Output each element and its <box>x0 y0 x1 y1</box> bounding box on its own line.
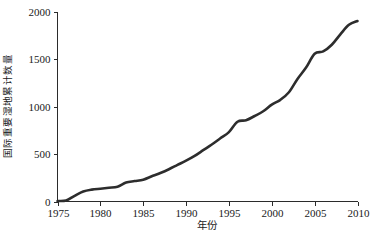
x-tick-label: 1975 <box>48 207 71 219</box>
x-tick-label: 1990 <box>176 207 199 219</box>
y-tick-labels: 0500100015002000 <box>29 6 52 208</box>
line-chart: 0500100015002000 19751980198519901995200… <box>0 0 376 242</box>
x-tick-labels: 19751980198519901995200020052010 <box>48 207 371 219</box>
y-tick-label: 1500 <box>29 53 52 65</box>
x-axis-title: 年份 <box>197 219 218 231</box>
y-tick-label: 2000 <box>29 6 52 18</box>
x-tick-label: 2000 <box>262 207 285 219</box>
y-tick-label: 500 <box>34 148 51 160</box>
x-tick-label: 1985 <box>133 207 156 219</box>
y-axis-title: 国际重要湿地累计数量 <box>2 54 13 158</box>
series-line-wetlands <box>58 21 358 201</box>
x-tick-label: 2005 <box>305 207 328 219</box>
x-tick-label: 2010 <box>348 207 371 219</box>
y-tick-label: 1000 <box>29 101 52 113</box>
x-tick-marks <box>59 202 359 206</box>
x-tick-label: 1995 <box>219 207 242 219</box>
chart-figure: 0500100015002000 19751980198519901995200… <box>0 0 376 242</box>
y-tick-marks <box>54 13 58 203</box>
x-tick-label: 1980 <box>90 207 113 219</box>
